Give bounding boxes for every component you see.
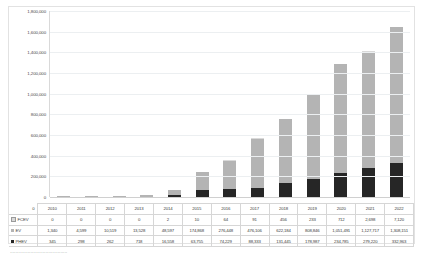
bar-segment-phev — [362, 168, 375, 197]
table-row: FCEV000021064914562337122,6987,120 — [9, 214, 414, 225]
table-year-header: 2017 — [240, 204, 269, 215]
table-cell: 10,519 — [96, 225, 125, 236]
gridline — [50, 135, 410, 136]
y-axis-tick-label: 1,200,000 — [27, 71, 46, 76]
legend-item-ev: EV — [9, 225, 38, 236]
bar-stack[interactable] — [251, 138, 264, 197]
bar-slot — [272, 11, 300, 197]
bar-segment-phev — [251, 188, 264, 197]
table-cell: 74,229 — [211, 236, 240, 247]
table-cell: 332,963 — [385, 236, 414, 247]
gridline — [50, 94, 410, 95]
table-year-header: 2015 — [182, 204, 211, 215]
table-cell: 48,597 — [153, 225, 182, 236]
table-cell: 0 — [125, 214, 154, 225]
table-cell: 1,340 — [38, 225, 67, 236]
y-axis-tick-label: 800,000 — [31, 112, 46, 117]
bar-slot — [50, 11, 78, 197]
bar-segment-phev — [196, 190, 209, 197]
table-cell: 1,051,491 — [327, 225, 356, 236]
y-axis-tick-label: 1,000,000 — [27, 91, 46, 96]
bar-segment-phev — [223, 189, 236, 197]
y-axis: 0200,000400,000600,000800,0001,000,0001,… — [9, 11, 49, 197]
data-table-body: 0201020112012201320142015201620172018201… — [9, 204, 414, 247]
table-row: EV1,3404,59910,51913,52848,597174,868276… — [9, 225, 414, 236]
table-cell: 622,184 — [269, 225, 298, 236]
table-cell: 276,448 — [211, 225, 240, 236]
bar-segment-phev — [279, 183, 292, 197]
bar-segment-phev — [390, 163, 403, 197]
bar-slot — [327, 11, 355, 197]
gridline — [50, 52, 410, 53]
bar-slot — [188, 11, 216, 197]
table-year-header: 2021 — [356, 204, 385, 215]
legend-label: PHEV — [16, 239, 27, 244]
gridline — [50, 114, 410, 115]
gridline — [50, 32, 410, 33]
table-cell: 1,127,717 — [356, 225, 385, 236]
gridline — [50, 73, 410, 74]
table-cell: 718 — [125, 236, 154, 247]
table-cell: 131,445 — [269, 236, 298, 247]
bar-stack[interactable] — [307, 95, 320, 197]
bar-slot — [355, 11, 383, 197]
table-cell: 0 — [96, 214, 125, 225]
table-cell: 345 — [38, 236, 67, 247]
table-cell: 298 — [67, 236, 96, 247]
y-axis-tick-label: 1,400,000 — [27, 50, 46, 55]
table-cell: 1,308,151 — [385, 225, 414, 236]
table-cell: 0 — [38, 214, 67, 225]
bar-slot — [382, 11, 410, 197]
bar-slot — [216, 11, 244, 197]
gridline — [50, 11, 410, 12]
bar-segment-ev — [279, 119, 292, 183]
table-cell: 456 — [269, 214, 298, 225]
table-year-header: 2010 — [38, 204, 67, 215]
bar-stack[interactable] — [279, 119, 292, 197]
y-axis-tick-label: 600,000 — [31, 133, 46, 138]
figure-stacked-column-chart: 0200,000400,000600,000800,0001,000,0001,… — [0, 0, 423, 263]
table-cell: 233 — [298, 214, 327, 225]
table-cell: 88,333 — [240, 236, 269, 247]
y-axis-tick-label: 0 — [44, 195, 46, 200]
bar-segment-ev — [251, 139, 264, 188]
table-year-header: 2011 — [67, 204, 96, 215]
table-year-header: 2014 — [153, 204, 182, 215]
data-table-wrap: 0201020112012201320142015201620172018201… — [9, 203, 414, 243]
bar-segment-phev — [307, 179, 320, 197]
table-cell: 279,220 — [356, 236, 385, 247]
bar-stack[interactable] — [168, 190, 181, 197]
legend-label: EV — [16, 228, 21, 233]
table-year-header: 2016 — [211, 204, 240, 215]
table-cell: 16,558 — [153, 236, 182, 247]
table-cell: 0 — [67, 214, 96, 225]
table-header-row: 0201020112012201320142015201620172018201… — [9, 204, 414, 215]
bar-segment-ev — [307, 95, 320, 179]
bar-slot — [299, 11, 327, 197]
y-axis-tick-label: 1,800,000 — [27, 9, 46, 14]
bar-slot — [161, 11, 189, 197]
table-cell: 178,987 — [298, 236, 327, 247]
y-axis-tick-label: 1,600,000 — [27, 29, 46, 34]
table-corner-zero-label: 0 — [9, 204, 38, 215]
gridline — [50, 156, 410, 157]
table-cell: 63,755 — [182, 236, 211, 247]
table-year-header: 2020 — [327, 204, 356, 215]
table-cell: 2,698 — [356, 214, 385, 225]
bar-slot — [244, 11, 272, 197]
bar-stack[interactable] — [223, 160, 236, 197]
table-cell: 7,120 — [385, 214, 414, 225]
table-year-header: 2022 — [385, 204, 414, 215]
chart-card: 0200,000400,000600,000800,0001,000,0001,… — [8, 6, 415, 244]
legend-item-fcev: FCEV — [9, 214, 38, 225]
bar-slot — [105, 11, 133, 197]
figure-caption: ········································… — [10, 250, 415, 255]
data-table: 0201020112012201320142015201620172018201… — [9, 203, 414, 247]
bar-segment-ev — [362, 52, 375, 169]
table-row: PHEV34529826271816,55863,75574,22988,333… — [9, 236, 414, 247]
table-cell: 174,868 — [182, 225, 211, 236]
table-cell: 262 — [96, 236, 125, 247]
table-year-header: 2018 — [269, 204, 298, 215]
table-year-header: 2013 — [125, 204, 154, 215]
table-cell: 476,106 — [240, 225, 269, 236]
